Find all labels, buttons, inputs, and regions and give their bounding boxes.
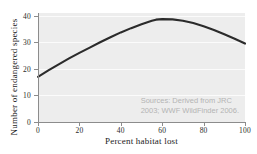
x-tick-label: 60 bbox=[158, 126, 166, 135]
y-axis-title: Number of endangered species bbox=[7, 0, 21, 154]
y-tick-label: 30 bbox=[23, 38, 31, 47]
source-annotation-line-1: Sources: Derived from JRC bbox=[141, 96, 239, 106]
plot-area: Sources: Derived from JRC 2003; WWF Wild… bbox=[38, 13, 245, 122]
x-axis-line bbox=[38, 122, 245, 123]
y-tick-label: 40 bbox=[23, 11, 31, 20]
y-tick-label: 10 bbox=[23, 91, 31, 100]
chart-figure: Sources: Derived from JRC 2003; WWF Wild… bbox=[0, 0, 257, 154]
y-tick-mark bbox=[34, 16, 38, 17]
y-axis-line bbox=[38, 13, 39, 122]
y-tick-label: 0 bbox=[27, 118, 31, 127]
source-annotation: Sources: Derived from JRC 2003; WWF Wild… bbox=[141, 96, 239, 116]
x-tick-label: 0 bbox=[36, 126, 40, 135]
y-tick-label: 20 bbox=[23, 64, 31, 73]
x-tick-label: 20 bbox=[75, 126, 83, 135]
y-tick-mark bbox=[34, 69, 38, 70]
source-annotation-line-2: 2003; WWF WildFinder 2006. bbox=[141, 106, 239, 116]
x-tick-label: 80 bbox=[200, 126, 208, 135]
x-tick-label: 100 bbox=[239, 126, 251, 135]
y-tick-mark bbox=[34, 42, 38, 43]
x-axis-title: Percent habitat lost bbox=[38, 136, 245, 146]
y-tick-mark bbox=[34, 122, 38, 123]
y-tick-mark bbox=[34, 95, 38, 96]
x-tick-label: 40 bbox=[117, 126, 125, 135]
